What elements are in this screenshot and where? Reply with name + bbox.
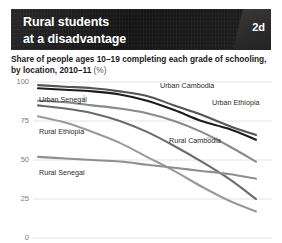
y-tick-label: 0 (5, 233, 29, 242)
title-line-2: at a disadvantage (23, 31, 223, 48)
y-tick-label: 100 (5, 77, 29, 86)
series-label: Urban Senegal (39, 95, 87, 104)
infographic-figure: Rural students at a disadvantage 2d Shar… (0, 0, 282, 243)
y-tick-label: 75 (5, 116, 29, 125)
y-tick-label: 50 (5, 155, 29, 164)
figure-number-badge: 2d (252, 21, 265, 33)
header-banner: Rural students at a disadvantage 2d (11, 9, 271, 50)
series-label: Rural Senegal (39, 168, 85, 177)
series-label: Urban Ethiopia (212, 98, 260, 107)
series-line (38, 105, 256, 199)
series-label: Rural Cambodia (169, 136, 221, 145)
title-line-1: Rural students (23, 15, 109, 29)
y-tick-label: 25 (5, 194, 29, 203)
series-label: Rural Ethiopia (39, 127, 84, 136)
chart-plot-area: 0255075100 Urban CambodiaUrban EthiopiaU… (0, 70, 282, 243)
page-title: Rural students at a disadvantage (23, 14, 223, 47)
series-label: Urban Cambodia (160, 81, 214, 90)
